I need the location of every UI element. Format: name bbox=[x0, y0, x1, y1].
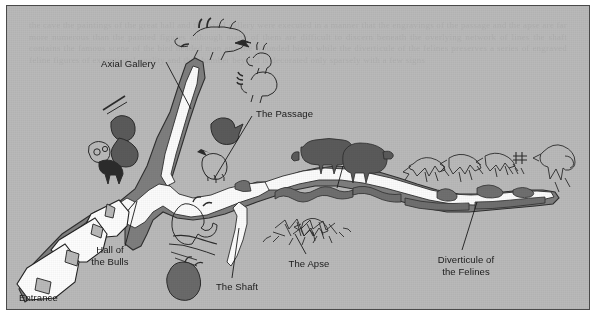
map-plate: the cave the paintings of the great hall… bbox=[6, 5, 590, 310]
engraved-animal-figures bbox=[175, 18, 251, 60]
label-the-apse: The Apse bbox=[269, 258, 349, 270]
leader-the-apse bbox=[295, 234, 306, 254]
horse-figure-group-left bbox=[88, 96, 138, 184]
label-axial-gallery: Axial Gallery bbox=[101, 58, 156, 70]
label-diverticule-of-the-felines: Diverticule of the Felines bbox=[411, 254, 521, 277]
label-hall-of-the-bulls: Hall of the Bulls bbox=[68, 244, 152, 267]
figure-container: the cave the paintings of the great hall… bbox=[0, 0, 598, 321]
label-entrance: Entrance bbox=[19, 292, 58, 304]
label-the-shaft: The Shaft bbox=[195, 281, 279, 293]
label-the-passage: The Passage bbox=[256, 108, 313, 120]
small-animal-figures bbox=[237, 42, 277, 103]
axial-gallery-figures bbox=[197, 118, 243, 183]
